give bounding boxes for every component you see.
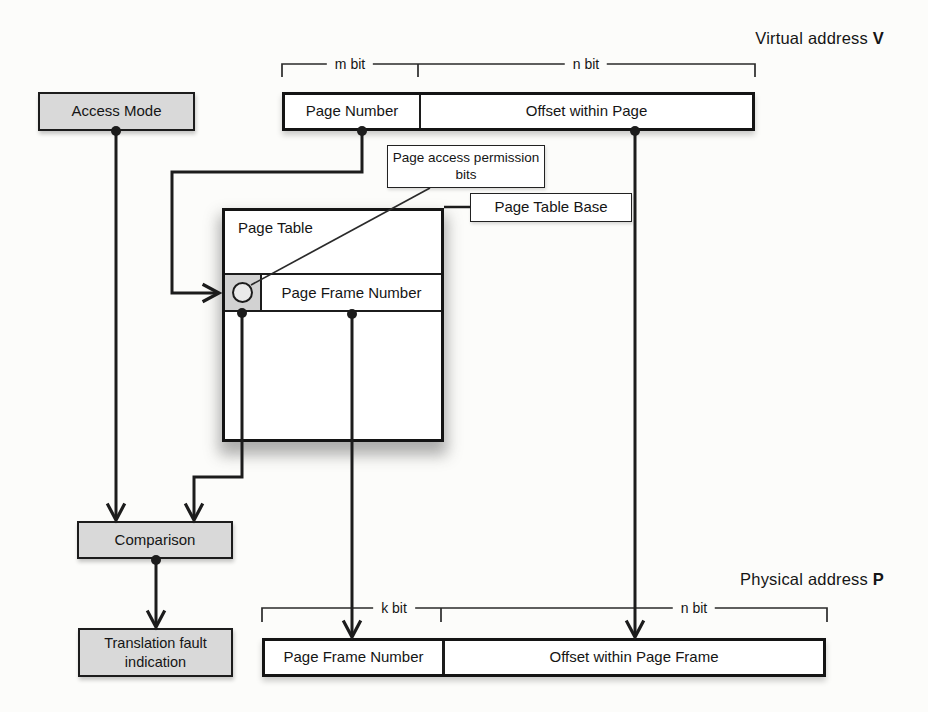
n-bit-label-physical: n bit xyxy=(673,600,715,616)
n-bit-label-virtual: n bit xyxy=(565,56,607,72)
address-translation-diagram: Virtual address V Physical address P m b… xyxy=(0,0,928,712)
page-table-label: Page Table xyxy=(238,219,313,236)
offset-within-page-frame-label: Offset within Page Frame xyxy=(550,648,719,667)
offset-within-page-frame-field: Offset within Page Frame xyxy=(445,641,823,674)
virtual-address-text: Virtual address xyxy=(755,29,873,47)
arrowhead-frame-number xyxy=(344,622,360,637)
virtual-address-symbol: V xyxy=(873,29,884,47)
virtual-address-word: Page Number Offset within Page xyxy=(282,92,755,131)
offset-within-page-label: Offset within Page xyxy=(526,102,647,121)
permission-bits-icon xyxy=(232,282,253,303)
physical-address-text: Physical address xyxy=(740,570,873,588)
m-bit-label: m bit xyxy=(327,56,373,72)
page-access-permission-label: Page access permission bits xyxy=(388,150,544,184)
access-mode-box: Access Mode xyxy=(38,92,195,131)
arrowhead-permission-comparison xyxy=(186,505,202,520)
page-table-entry-row: Page Frame Number xyxy=(225,273,441,312)
physical-address-word: Page Frame Number Offset within Page Fra… xyxy=(262,638,826,677)
arrowhead-translation-fault xyxy=(148,612,164,627)
page-table-box: Page Table xyxy=(222,208,444,442)
translation-fault-label: Translation fault indication xyxy=(94,634,217,670)
page-table-base-label: Page Table Base xyxy=(494,198,607,217)
page-frame-number-field: Page Frame Number xyxy=(265,641,445,674)
physical-bit-bracket xyxy=(262,608,827,622)
physical-address-symbol: P xyxy=(873,570,884,588)
comparison-label: Comparison xyxy=(115,531,196,550)
comparison-box: Comparison xyxy=(77,521,233,559)
offset-within-page-field: Offset within Page xyxy=(421,95,752,128)
page-table-base-box: Page Table Base xyxy=(470,193,632,222)
page-number-label: Page Number xyxy=(306,102,399,121)
page-table-entry-cell: Page Frame Number xyxy=(262,275,441,310)
page-table-entry-label: Page Frame Number xyxy=(281,284,421,301)
physical-address-title: Physical address P xyxy=(600,570,884,589)
arrowhead-access-mode xyxy=(108,505,124,520)
arrowhead-offset xyxy=(627,622,643,637)
page-number-field: Page Number xyxy=(285,95,421,128)
virtual-address-title: Virtual address V xyxy=(600,29,884,48)
page-frame-number-label: Page Frame Number xyxy=(283,648,423,667)
k-bit-label: k bit xyxy=(373,600,415,616)
permission-bits-cell xyxy=(225,275,262,310)
arrowhead-page-table-entry xyxy=(204,285,219,301)
translation-fault-box: Translation fault indication xyxy=(78,628,233,677)
page-access-permission-box: Page access permission bits xyxy=(387,145,545,188)
access-mode-label: Access Mode xyxy=(71,102,161,121)
